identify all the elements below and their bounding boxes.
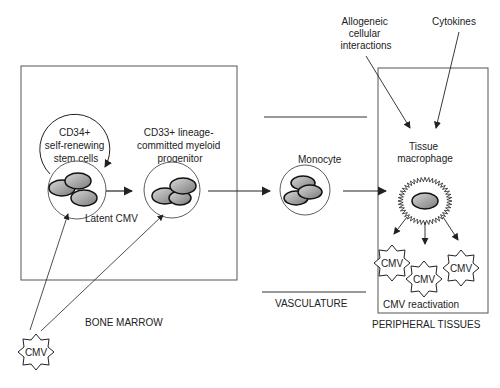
cmv-star-1: CMV <box>374 245 410 281</box>
cmv-star-2: CMV <box>406 261 442 297</box>
cd33-label: CD33+ lineage- committed myeloid progeni… <box>137 127 223 164</box>
cmv-star-3: CMV <box>443 250 479 286</box>
bone-marrow-label: BONE MARROW <box>85 317 163 328</box>
svg-text:CMV: CMV <box>25 347 48 358</box>
reactivation-label: CMV reactivation <box>383 299 459 310</box>
vasculature-label: VASCULATURE <box>275 298 348 309</box>
svg-text:CMV: CMV <box>381 258 404 269</box>
macrophage-label: Tissue macrophage <box>397 141 453 164</box>
monocyte-label: Monocyte <box>298 154 342 165</box>
monocyte-cell <box>280 165 330 215</box>
latent-cmv-label: Latent CMV <box>85 213 138 224</box>
allogeneic-label: Allogeneic cellular interactions <box>340 16 391 51</box>
diagram: BONE MARROW VASCULATURE PERIPHERAL TISSU… <box>0 0 500 388</box>
peripheral-label: PERIPHERAL TISSUES <box>372 319 481 330</box>
svg-text:CMV: CMV <box>450 263 473 274</box>
cd34-label: CD34+ self-renewing stem cells <box>45 127 107 164</box>
progenitor-cell <box>144 162 200 218</box>
stem-cell <box>48 161 106 219</box>
svg-text:CMV: CMV <box>413 274 436 285</box>
cytokines-label: Cytokines <box>432 16 476 27</box>
cmv-star-external: CMV <box>18 334 54 370</box>
